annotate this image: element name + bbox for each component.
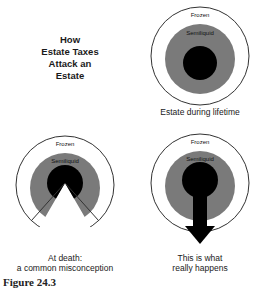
frozen-label: Frozen	[191, 139, 210, 145]
semiliquid-label: Semiliquid	[186, 30, 214, 36]
reality-circles: Frozen Semiliquid	[151, 134, 249, 244]
caption-line: Estate during lifetime	[140, 107, 260, 117]
frozen-label: Frozen	[56, 141, 75, 147]
misconception-caption: At death: a common misconception	[5, 253, 125, 273]
liquid-core	[183, 46, 217, 80]
semiliquid-label: Semiliquid	[51, 158, 79, 164]
down-arrow-icon	[185, 226, 215, 244]
caption-line: At death:	[5, 253, 125, 263]
lifetime-estate-circles: Frozen Semiliquid	[151, 7, 249, 105]
misconception-circles: Frozen Semiliquid	[16, 136, 114, 234]
frozen-label: Frozen	[191, 12, 210, 18]
lifetime-caption: Estate during lifetime	[140, 107, 260, 117]
reality-caption: This is what really happens	[140, 253, 260, 273]
semiliquid-label: Semiliquid	[186, 156, 214, 162]
caption-line: a common misconception	[5, 263, 125, 273]
caption-line: really happens	[140, 263, 260, 273]
caption-line: This is what	[140, 253, 260, 263]
arrow-shaft	[193, 185, 207, 227]
figure-label: Figure 24.3	[3, 276, 56, 288]
